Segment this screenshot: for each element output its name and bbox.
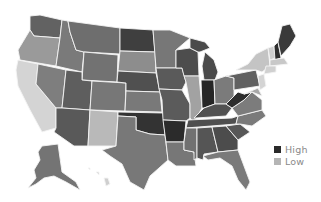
state-nd[interactable] xyxy=(120,28,155,52)
state-ma[interactable] xyxy=(270,58,288,66)
state-mt[interactable] xyxy=(68,21,120,54)
state-me[interactable] xyxy=(278,24,296,56)
state-fl[interactable] xyxy=(203,150,250,190)
state-ar[interactable] xyxy=(163,120,186,142)
state-nm[interactable] xyxy=(88,110,118,146)
state-nj[interactable] xyxy=(258,74,266,90)
state-in[interactable] xyxy=(201,80,215,108)
state-sd[interactable] xyxy=(118,51,156,73)
state-ia[interactable] xyxy=(156,68,186,90)
us-states-map xyxy=(0,0,321,202)
map-legend: High Low xyxy=(274,144,308,168)
state-co[interactable] xyxy=(90,81,126,111)
state-hi[interactable] xyxy=(88,168,110,186)
legend-label-low: Low xyxy=(285,156,304,167)
legend-label-high: High xyxy=(285,144,308,155)
legend-item-low: Low xyxy=(274,156,308,167)
state-wa[interactable] xyxy=(30,15,62,38)
state-az[interactable] xyxy=(54,108,90,146)
state-mo[interactable] xyxy=(159,89,190,121)
state-ak[interactable] xyxy=(28,144,80,190)
state-ct[interactable] xyxy=(264,66,276,74)
legend-item-high: High xyxy=(274,144,308,155)
state-ks[interactable] xyxy=(125,91,162,112)
state-wy[interactable] xyxy=(82,52,118,82)
legend-swatch-high xyxy=(274,146,281,153)
state-ny[interactable] xyxy=(236,48,270,72)
legend-swatch-low xyxy=(274,158,281,165)
